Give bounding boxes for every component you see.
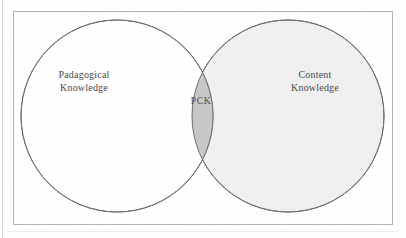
label-content-knowledge-line1: Content bbox=[268, 69, 362, 82]
label-pedagogical-knowledge-line2: Knowledge bbox=[36, 82, 132, 95]
label-pedagogical-knowledge-line1: Padagogical bbox=[36, 69, 132, 82]
label-content-knowledge: Content Knowledge bbox=[268, 69, 362, 94]
label-pedagogical-knowledge: Padagogical Knowledge bbox=[36, 69, 132, 94]
venn-circle-content-knowledge bbox=[192, 20, 384, 212]
venn-circle-pedagogical-knowledge bbox=[21, 20, 213, 212]
venn-diagram-canvas bbox=[0, 0, 406, 238]
label-content-knowledge-line2: Knowledge bbox=[268, 82, 362, 95]
venn-diagram-figure: Padagogical Knowledge Content Knowledge … bbox=[0, 0, 406, 238]
label-pck: PCK bbox=[178, 95, 224, 108]
